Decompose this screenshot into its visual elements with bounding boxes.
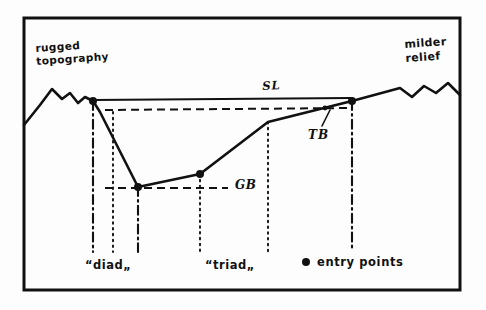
label-diad: “diad„ xyxy=(85,258,131,272)
legend-dot-icon xyxy=(302,258,310,266)
entry-point-graben-floor-west xyxy=(134,183,142,191)
label-terrace-break: TB xyxy=(308,128,329,142)
entry-point-graben-floor-east xyxy=(196,170,204,178)
label-milder-relief: milder relief xyxy=(404,35,448,66)
label-entry-points: entry points xyxy=(317,255,403,269)
diagram-canvas: rugged topography milder relief SL GB TB… xyxy=(0,0,486,310)
entry-point-terrace-break-top xyxy=(348,97,356,105)
label-sea-level: SL xyxy=(262,78,281,93)
minor-points xyxy=(323,106,328,111)
minor-point-TB xyxy=(323,106,328,111)
label-triad: “triad„ xyxy=(205,258,255,272)
legend-marker-dot xyxy=(302,258,310,266)
label-graben-base: GB xyxy=(235,178,256,192)
label-rugged-topography: rugged topography xyxy=(35,37,109,68)
entry-point-diad-upper-break xyxy=(89,97,97,105)
